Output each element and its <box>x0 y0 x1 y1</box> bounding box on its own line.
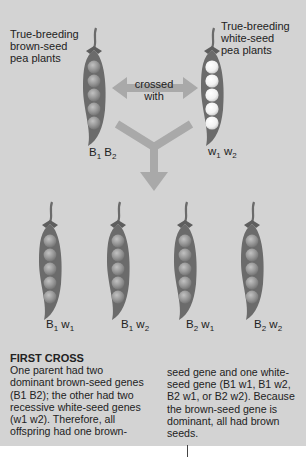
cross-label-line: with <box>128 90 180 102</box>
offspring-pod-1 <box>39 202 62 320</box>
cross-label-line: crossed <box>128 78 180 90</box>
merge-arrow <box>117 124 191 174</box>
caption-line: True-breeding <box>221 20 290 32</box>
crossed-with-label: crossed with <box>128 78 180 102</box>
description-line: (w1 w2). Therefore, all <box>10 413 144 425</box>
white-parent-caption: True-breeding white-seed pea plants <box>221 20 290 56</box>
offspring-pod-4 <box>241 202 264 320</box>
brown-parent-genotype: B1 B2 <box>89 146 116 161</box>
description-line: offspring had one brown- <box>10 425 144 437</box>
offspring-genotype-3: B2 w1 <box>186 318 214 333</box>
description-line: dominant brown-seed genes <box>10 376 144 388</box>
description-line: dominant, all had brown <box>167 415 295 427</box>
description-left-column: FIRST CROSS One parent had two dominant … <box>10 352 144 437</box>
merge-arrow-head <box>140 172 168 191</box>
parent-pod-brown <box>83 28 106 146</box>
offspring-genotype-1: B1 w1 <box>46 318 74 333</box>
offspring-pod-2 <box>107 202 130 320</box>
brown-parent-caption: True-breeding brown-seed pea plants <box>10 28 79 64</box>
description-line: the brown-seed gene is <box>167 403 295 415</box>
description-line: seed gene (B1 w1, B1 w2, <box>167 378 295 390</box>
caption-line: white-seed <box>221 32 290 44</box>
description-right-column: seed gene and one white- seed gene (B1 w… <box>167 366 295 439</box>
description-line: recessive white-seed genes <box>10 401 144 413</box>
caption-line: pea plants <box>10 52 79 64</box>
description-line: One parent had two <box>10 364 144 376</box>
white-parent-genotype: w1 w2 <box>208 145 237 160</box>
description-line: seeds. <box>167 427 295 439</box>
offspring-pod-3 <box>174 202 197 320</box>
description-line: seed gene and one white- <box>167 366 295 378</box>
offspring-genotype-2: B1 w2 <box>121 318 149 333</box>
page-divider-tick <box>187 445 188 457</box>
description-line: (B1 B2); the other had two <box>10 389 144 401</box>
offspring-genotype-4: B2 w2 <box>254 318 282 333</box>
caption-line: True-breeding <box>10 28 79 40</box>
caption-line: pea plants <box>221 44 290 56</box>
description-heading: FIRST CROSS <box>10 352 144 364</box>
description-line: B2 w1, or B2 w2). Because <box>167 390 295 402</box>
caption-line: brown-seed <box>10 40 79 52</box>
